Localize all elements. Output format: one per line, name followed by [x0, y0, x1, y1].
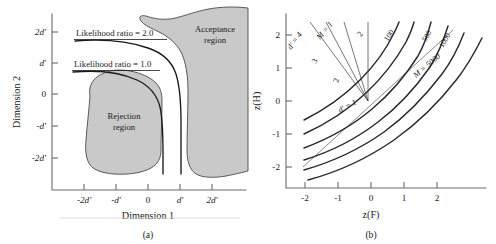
panel-a-xtick-0: -2d' [77, 195, 92, 205]
panel-a-xtick-4: 2d' [206, 195, 218, 205]
panel-a-plot: 2d' d' 0 -d' -2d' -2d' -d' 0 d' 2d' Dime… [0, 0, 248, 244]
panel-b-caption: (b) [365, 229, 376, 241]
m-curve-label-2: 2 [355, 30, 365, 38]
panel-b: 2 1 0 -1 -2 -2 -1 0 1 2 z(F) z(H) [248, 0, 496, 244]
panel-b-xtick-3: 1 [402, 193, 407, 203]
m-curve-label-5000: M = 5000 [411, 52, 442, 80]
panel-b-ylabel: z(H) [251, 92, 263, 111]
panel-b-plot: 2 1 0 -1 -2 -2 -1 0 1 2 z(F) z(H) [248, 0, 496, 244]
rejection-region-label-line2: region [113, 122, 136, 132]
panel-a-xtick-1: -d' [111, 195, 122, 205]
iso-d-label-4: d' = 4 [285, 30, 304, 51]
panel-b-xtick-0: -2 [301, 193, 309, 203]
panel-b-x-ticks [305, 182, 437, 188]
panel-a-ylabel: Dimension 2 [11, 76, 22, 128]
m-curve-label-500: 500 [420, 28, 434, 43]
panel-b-y-ticks [286, 35, 292, 167]
panel-b-ytick-3: -1 [272, 129, 280, 139]
acceptance-region-label-line2: region [204, 35, 227, 45]
panel-b-xtick-1: -1 [334, 193, 342, 203]
panel-a-xtick-3: d' [177, 195, 185, 205]
acceptance-region-label-line1: Acceptance [195, 24, 235, 34]
m-curve-label-1: M = 1 [314, 20, 335, 42]
panel-b-ytick-2: 0 [275, 96, 280, 106]
panel-a-caption: (a) [143, 229, 154, 241]
figure-two-panel: 2d' d' 0 -d' -2d' -2d' -d' 0 d' 2d' Dime… [0, 0, 496, 244]
panel-a: 2d' d' 0 -d' -2d' -2d' -d' 0 d' 2d' Dime… [0, 0, 248, 244]
panel-a-ytick-1: d' [39, 58, 47, 68]
panel-a-x-ticks [84, 184, 212, 190]
panel-a-ytick-0: 2d' [35, 27, 47, 37]
figure-baseline-rule [0, 216, 496, 228]
panel-b-xtick-2: 0 [369, 193, 374, 203]
panel-b-xtick-4: 2 [435, 193, 440, 203]
panel-b-ytick-4: -2 [272, 162, 280, 172]
panel-b-ytick-0: 2 [275, 30, 280, 40]
iso-d-label-2: 2 [331, 77, 341, 84]
m-curve-1000 [304, 33, 464, 170]
iso-d-label-3: 3 [310, 57, 320, 65]
iso-d-label-1: d' = 1 [337, 98, 358, 115]
likelihood-ratio-2-label: Likelihood ratio = 2.0 [76, 28, 154, 38]
chance-diagonal [303, 30, 453, 167]
panel-a-ytick-2: 0 [41, 89, 46, 99]
rejection-region-label-line1: Rejection [108, 111, 142, 121]
m-curve-label-100: 100 [382, 28, 396, 43]
panel-a-y-ticks [52, 32, 58, 158]
panel-b-ytick-1: 1 [275, 63, 280, 73]
likelihood-ratio-1-label: Likelihood ratio = 1.0 [74, 59, 152, 69]
panel-a-ytick-3: -d' [36, 121, 47, 131]
panel-a-xtick-2: 0 [146, 195, 151, 205]
panel-a-ytick-4: -2d' [32, 153, 47, 163]
m-curve-label-1000: 1000 [437, 31, 452, 49]
